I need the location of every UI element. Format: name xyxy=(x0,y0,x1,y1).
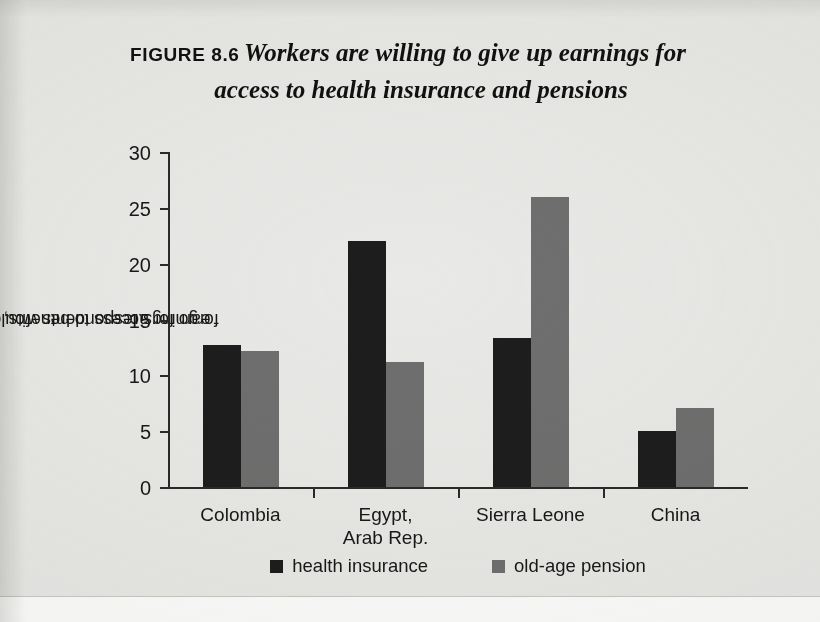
y-axis-title: earnings respondents wouldforgo for acce… xyxy=(74,152,128,487)
bar-china-health-insurance xyxy=(638,431,676,487)
bar-sierra-leone-health-insurance xyxy=(493,338,531,487)
figure-headline-line2: access to health insurance and pensions xyxy=(58,73,758,108)
y-tick-label-0: 0 xyxy=(140,477,151,500)
y-tick-10: 10 xyxy=(160,375,168,377)
x-category-label-0: Colombia xyxy=(200,504,280,527)
y-tick-0: 0 xyxy=(160,487,168,489)
y-tick-30: 30 xyxy=(160,152,168,154)
bar-egypt-arab-rep-health-insurance xyxy=(348,241,386,487)
y-tick-label-15: 15 xyxy=(129,309,151,332)
x-category-label-2: Sierra Leone xyxy=(476,504,585,527)
figure-number-label: FIGURE 8.6 xyxy=(130,44,239,65)
bar-colombia-old-age-pension xyxy=(241,351,279,487)
legend-swatch-icon-old-age-pension xyxy=(492,560,505,573)
y-tick-20: 20 xyxy=(160,264,168,266)
x-tick-2 xyxy=(458,489,460,498)
legend-swatch-icon-health-insurance xyxy=(270,560,283,573)
x-tick-3 xyxy=(603,489,605,498)
y-tick-25: 25 xyxy=(160,208,168,210)
legend-item-old-age-pension[interactable]: old-age pension xyxy=(492,555,646,577)
y-tick-15: 15 xyxy=(160,320,168,322)
y-axis-line xyxy=(168,152,170,488)
bar-egypt-arab-rep-old-age-pension xyxy=(386,362,424,487)
x-category-label-1: Egypt, Arab Rep. xyxy=(343,504,429,550)
y-tick-label-10: 10 xyxy=(129,365,151,388)
y-tick-label-30: 30 xyxy=(129,142,151,165)
y-tick-label-5: 5 xyxy=(140,421,151,444)
x-tick-1 xyxy=(313,489,315,498)
y-tick-label-20: 20 xyxy=(129,253,151,276)
legend-label-old-age-pension: old-age pension xyxy=(514,555,646,577)
chart-legend: health insurance old-age pension xyxy=(168,555,748,577)
y-tick-5: 5 xyxy=(160,431,168,433)
y-tick-label-25: 25 xyxy=(129,197,151,220)
figure-title: FIGURE 8.6 Workers are willing to give u… xyxy=(58,36,758,107)
plot-area: 051015202530 ColombiaEgypt, Arab Rep.Sie… xyxy=(168,152,748,487)
bar-colombia-health-insurance xyxy=(203,345,241,487)
figure-headline-line1: Workers are willing to give up earnings … xyxy=(244,39,686,66)
bar-sierra-leone-old-age-pension xyxy=(531,197,569,487)
page-bottom-edge xyxy=(0,596,820,622)
x-category-label-3: China xyxy=(651,504,701,527)
legend-item-health-insurance[interactable]: health insurance xyxy=(270,555,428,577)
figure-page: FIGURE 8.6 Workers are willing to give u… xyxy=(0,0,820,622)
legend-label-health-insurance: health insurance xyxy=(292,555,428,577)
bar-china-old-age-pension xyxy=(676,408,714,487)
